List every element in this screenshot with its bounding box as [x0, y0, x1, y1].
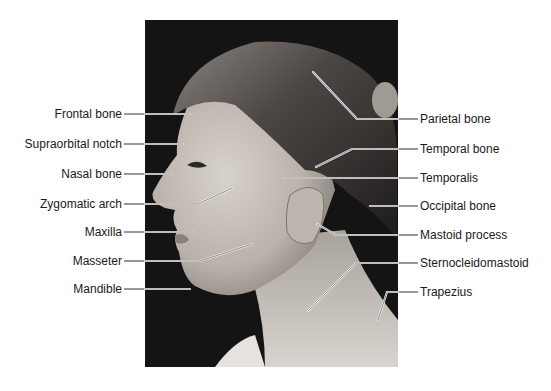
label-zygomatic-arch: Zygomatic arch	[40, 197, 122, 211]
label-temporal-bone: Temporal bone	[420, 142, 499, 156]
label-masseter: Masseter	[73, 254, 122, 268]
label-occipital-bone: Occipital bone	[420, 199, 496, 213]
label-frontal-bone: Frontal bone	[55, 107, 122, 121]
label-mandible: Mandible	[73, 282, 122, 296]
label-nasal-bone: Nasal bone	[61, 167, 122, 181]
label-mastoid-process: Mastoid process	[420, 228, 507, 242]
label-supraorbital-notch: Supraorbital notch	[25, 137, 122, 151]
leader-lines	[0, 0, 551, 391]
label-parietal-bone: Parietal bone	[420, 112, 491, 126]
label-sternocleidomastoid: Sternocleidomastoid	[420, 256, 529, 270]
label-maxilla: Maxilla	[85, 225, 122, 239]
label-temporalis: Temporalis	[420, 171, 478, 185]
label-trapezius: Trapezius	[420, 285, 472, 299]
